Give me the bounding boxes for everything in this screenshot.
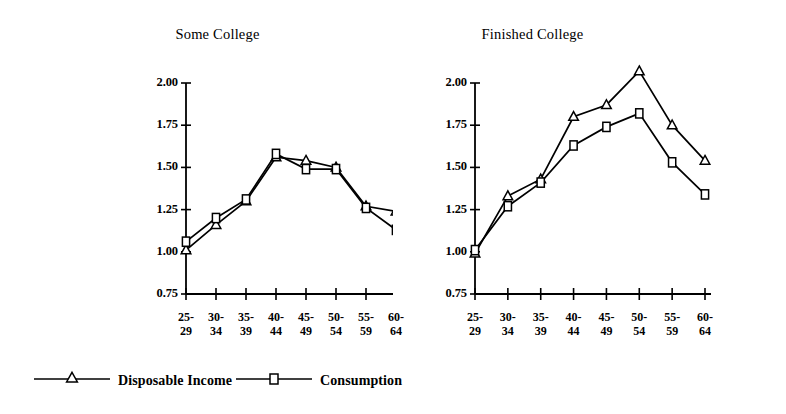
y-axis-tick-label: 1.75 xyxy=(421,117,467,132)
data-point-marker-square xyxy=(603,122,610,131)
chart-legend: Disposable Income Consumption xyxy=(0,366,786,414)
x-axis-tick-label-bottom: 49 xyxy=(289,324,323,338)
data-point-marker-square xyxy=(669,158,676,167)
y-axis-tick-label: 2.00 xyxy=(132,75,178,90)
x-axis-tick-label-bottom: 54 xyxy=(622,324,656,338)
x-axis-tick-label-bottom: 34 xyxy=(491,324,525,338)
x-axis-tick-label-top: 25- xyxy=(458,310,492,324)
y-axis-tick-label: 1.50 xyxy=(132,159,178,174)
x-axis-tick-label: 30-34 xyxy=(199,310,233,338)
data-point-marker-square xyxy=(302,164,309,173)
plot-area-finished-college: 2.001.751.501.251.000.7525-2930-3435-394… xyxy=(320,0,713,362)
data-point-marker-square xyxy=(471,246,478,255)
x-axis-tick-label-bottom: 64 xyxy=(688,324,722,338)
x-axis-tick-label-top: 40- xyxy=(259,310,293,324)
x-axis-tick-label-bottom: 59 xyxy=(655,324,689,338)
x-axis-tick-label-top: 55- xyxy=(655,310,689,324)
data-point-marker-square xyxy=(182,237,189,246)
series-line-consumption xyxy=(475,113,705,250)
x-axis-tick-label-bottom: 39 xyxy=(524,324,558,338)
y-axis-tick-label: 1.75 xyxy=(132,117,178,132)
x-axis-tick-label-top: 35- xyxy=(229,310,263,324)
x-axis-tick-label: 55-59 xyxy=(655,310,689,338)
chart-panel-finished-college: Finished College 2.001.751.501.251.000.7… xyxy=(320,0,713,362)
y-axis-tick-label: 1.00 xyxy=(132,244,178,259)
y-axis-tick-label: 1.25 xyxy=(421,202,467,217)
data-point-marker-triangle xyxy=(634,66,644,75)
data-point-marker-square xyxy=(242,195,249,204)
x-axis-tick-label: 45-49 xyxy=(589,310,623,338)
x-axis-tick-label-bottom: 29 xyxy=(169,324,203,338)
x-axis-tick-label-bottom: 34 xyxy=(199,324,233,338)
legend-entry-consumption: Consumption xyxy=(236,366,402,396)
x-axis-tick-label: 60-64 xyxy=(688,310,722,338)
x-axis-tick-label-top: 25- xyxy=(169,310,203,324)
x-axis-tick-label: 25-29 xyxy=(458,310,492,338)
data-point-marker-square xyxy=(701,190,708,199)
x-axis-tick-label: 40-44 xyxy=(557,310,591,338)
legend-entry-disposable-income: Disposable Income xyxy=(34,366,232,396)
data-point-marker-square xyxy=(504,202,511,211)
x-axis-tick-label: 40-44 xyxy=(259,310,293,338)
x-axis-tick-label-bottom: 39 xyxy=(229,324,263,338)
x-axis-tick-label-top: 60- xyxy=(688,310,722,324)
y-axis-tick-label: 1.00 xyxy=(421,244,467,259)
legend-label-consumption: Consumption xyxy=(320,373,402,389)
two-panel-line-chart-figure: Some College 2.001.751.501.251.000.7525-… xyxy=(0,0,786,414)
x-axis-tick-label-top: 30- xyxy=(199,310,233,324)
data-point-marker-square xyxy=(636,109,643,118)
data-point-marker-triangle xyxy=(667,120,677,129)
x-axis-tick-label: 45-49 xyxy=(289,310,323,338)
x-axis-tick-label-bottom: 44 xyxy=(557,324,591,338)
y-axis-tick-label: 2.00 xyxy=(421,75,467,90)
x-axis-tick-label-bottom: 29 xyxy=(458,324,492,338)
y-axis-tick-label: 0.75 xyxy=(421,286,467,301)
x-axis-tick-label-bottom: 44 xyxy=(259,324,293,338)
y-axis-tick-label: 1.50 xyxy=(421,159,467,174)
x-axis-tick-label: 50-54 xyxy=(622,310,656,338)
x-axis-tick-label-bottom: 49 xyxy=(589,324,623,338)
legend-marker-open-triangle-icon xyxy=(34,369,110,393)
y-axis-tick-label: 0.75 xyxy=(132,286,178,301)
x-axis-tick-label: 25-29 xyxy=(169,310,203,338)
x-axis-tick-label-top: 50- xyxy=(622,310,656,324)
x-axis-tick-label: 35-39 xyxy=(229,310,263,338)
x-axis-tick-label-top: 45- xyxy=(289,310,323,324)
x-axis-tick-label: 35-39 xyxy=(524,310,558,338)
x-axis-tick-label-top: 35- xyxy=(524,310,558,324)
data-point-marker-square xyxy=(212,213,219,222)
legend-marker-open-square-icon xyxy=(236,369,312,393)
data-point-marker-square xyxy=(570,141,577,150)
legend-label-disposable-income: Disposable Income xyxy=(118,373,232,389)
chart-svg xyxy=(320,0,713,362)
x-axis-tick-label-top: 40- xyxy=(557,310,591,324)
x-axis-tick-label-top: 45- xyxy=(589,310,623,324)
data-point-marker-square xyxy=(537,178,544,187)
data-point-marker-square xyxy=(272,149,279,158)
x-axis-tick-label: 30-34 xyxy=(491,310,525,338)
x-axis-tick-label-top: 30- xyxy=(491,310,525,324)
y-axis-tick-label: 1.25 xyxy=(132,202,178,217)
